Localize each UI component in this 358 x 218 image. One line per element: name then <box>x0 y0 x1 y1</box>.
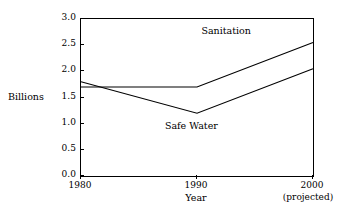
y-tick-label: 3.0 <box>50 13 76 22</box>
x-tick-label: 1990 <box>185 180 208 190</box>
y-tick-label: 1.0 <box>50 118 76 127</box>
line-chart-figure: Billions 3.02.52.01.51.00.50.0 198019902… <box>0 0 358 218</box>
series-lines <box>81 19 313 176</box>
y-tick-label: 2.0 <box>50 65 76 74</box>
x-tick-sublabel: (projected) <box>283 192 333 202</box>
x-tick-label: 1980 <box>69 180 92 190</box>
series-line-sanitation <box>81 43 313 87</box>
x-tick-mark <box>80 175 81 179</box>
y-tick-label: 0.0 <box>50 170 76 179</box>
y-tick-label: 1.5 <box>50 92 76 101</box>
y-tick-label: 2.5 <box>50 39 76 48</box>
x-tick-mark <box>196 175 197 179</box>
series-line-safe-water <box>81 69 313 113</box>
plot-area <box>80 18 314 177</box>
series-label-safe-water: Safe Water <box>165 121 218 131</box>
x-tick-label: 2000 <box>301 180 324 190</box>
x-axis-title: Year <box>185 193 206 203</box>
x-tick-mark <box>312 175 313 179</box>
y-tick-label: 0.5 <box>50 144 76 153</box>
series-label-sanitation: Sanitation <box>201 26 251 36</box>
